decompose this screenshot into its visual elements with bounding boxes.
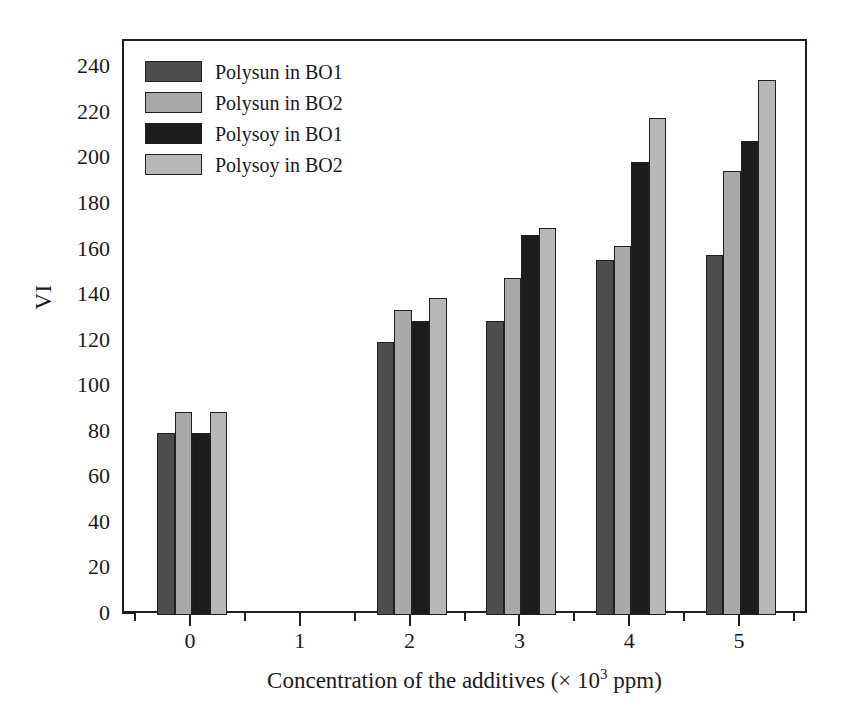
x-tick-minor [573, 613, 575, 621]
x-tick-minor [464, 613, 466, 621]
x-axis-title-tail: ppm) [608, 668, 662, 693]
x-tick-label: 1 [270, 630, 330, 652]
y-tick-label: 180 [52, 192, 110, 214]
y-tick-label: 140 [52, 283, 110, 305]
y-tick-label: 20 [52, 556, 110, 578]
legend-label: Polysun in BO1 [215, 62, 343, 82]
plot-area: Polysun in BO1Polysun in BO2Polysoy in B… [122, 39, 807, 613]
legend-item[interactable]: Polysun in BO2 [145, 89, 405, 116]
legend-item[interactable]: Polysun in BO1 [145, 58, 405, 85]
bar [210, 412, 228, 615]
x-tick-label: 2 [380, 630, 440, 652]
bar [741, 141, 759, 615]
x-axis-title: Concentration of the additives (× 103 pp… [122, 668, 807, 694]
bar [539, 228, 557, 615]
y-tick-label: 200 [52, 146, 110, 168]
x-axis-title-main: Concentration of the additives (× 10 [267, 668, 600, 693]
legend-item[interactable]: Polysoy in BO1 [145, 120, 405, 147]
x-tick-minor [793, 613, 795, 621]
y-tick-label: 160 [52, 238, 110, 260]
bar [394, 310, 412, 615]
bar [521, 235, 539, 615]
legend: Polysun in BO1Polysun in BO2Polysoy in B… [145, 58, 405, 182]
x-axis-title-exponent: 3 [600, 666, 608, 682]
y-tick-label: 100 [52, 374, 110, 396]
x-tick-minor [354, 613, 356, 621]
x-tick-label: 4 [599, 630, 659, 652]
bar [192, 433, 210, 615]
legend-swatch [145, 61, 202, 82]
x-tick-minor [683, 613, 685, 621]
bar [723, 171, 741, 615]
legend-swatch [145, 92, 202, 113]
x-tick-major [299, 613, 301, 626]
bar [157, 433, 175, 615]
y-tick-label: 80 [52, 420, 110, 442]
bar [412, 321, 430, 615]
y-tick-label: 40 [52, 511, 110, 533]
bar [631, 162, 649, 615]
legend-swatch [145, 154, 202, 175]
legend-item[interactable]: Polysoy in BO2 [145, 151, 405, 178]
bar [429, 298, 447, 615]
bar [596, 260, 614, 615]
bar [377, 342, 395, 615]
y-tick-label: 240 [52, 55, 110, 77]
bar [758, 80, 776, 615]
x-tick-minor [134, 613, 136, 621]
x-tick-label: 3 [489, 630, 549, 652]
legend-label: Polysoy in BO1 [215, 124, 343, 144]
bar [614, 246, 632, 615]
x-tick-label: 5 [709, 630, 769, 652]
legend-label: Polysoy in BO2 [215, 155, 343, 175]
y-tick-label: 60 [52, 465, 110, 487]
y-tick-label: 220 [52, 101, 110, 123]
bar [504, 278, 522, 615]
bar [175, 412, 193, 615]
legend-swatch [145, 123, 202, 144]
x-tick-minor [244, 613, 246, 621]
bar [706, 255, 724, 615]
y-tick-label: 0 [52, 602, 110, 624]
bar [486, 321, 504, 615]
chart-figure: VI Concentration of the additives (× 103… [0, 0, 849, 719]
legend-label: Polysun in BO2 [215, 93, 343, 113]
x-tick-label: 0 [160, 630, 220, 652]
y-tick-label: 120 [52, 329, 110, 351]
bar [649, 118, 667, 615]
